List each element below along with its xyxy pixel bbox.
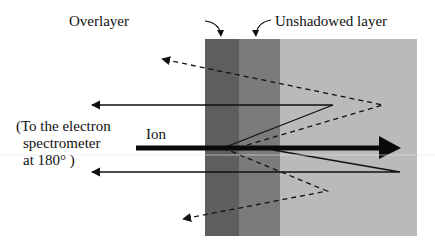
spectrometer-label-line2: spectrometer xyxy=(16,135,111,152)
ion-label: Ion xyxy=(146,127,166,142)
spectrometer-label-line3: at 180° ) xyxy=(16,152,111,169)
unshadowed-layer-label: Unshadowed layer xyxy=(275,14,387,29)
spectrometer-label-line1: (To the electron xyxy=(16,118,111,135)
unshadowed-pointer-icon xyxy=(256,20,271,34)
overlayer-label: Overlayer xyxy=(69,14,129,29)
bulk-region xyxy=(280,39,417,236)
sample-block xyxy=(205,39,417,236)
backscatter-diagram: Overlayer Unshadowed layer Ion (To the e… xyxy=(0,0,435,246)
spectrometer-label: (To the electron spectrometer at 180° ) xyxy=(16,118,111,169)
